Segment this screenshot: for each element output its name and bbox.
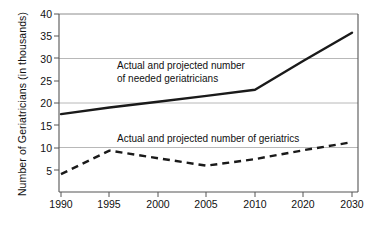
x-tick-label: 1990 — [38, 199, 84, 210]
annotation-needed-geriatricians: Actual and projected number of needed ge… — [117, 60, 245, 85]
line-chart-figure: Number of Geriatricians (in thousands) 4… — [0, 0, 376, 228]
annotation-needed-line2: of needed geriatricians — [117, 73, 245, 86]
x-tick-label: 2020 — [280, 199, 326, 210]
x-tick-label: 2010 — [232, 199, 278, 210]
x-tick-label: 2005 — [183, 199, 229, 210]
x-axis-tick-labels: 1990 1995 2000 2005 2010 2020 2030 — [0, 0, 376, 228]
annotation-needed-line1: Actual and projected number — [117, 60, 245, 73]
annotation-geriatrics-line1: Actual and projected number of geriatric… — [117, 133, 299, 146]
annotation-geriatrics: Actual and projected number of geriatric… — [117, 133, 299, 146]
x-tick-label: 1995 — [86, 199, 132, 210]
x-tick-label: 2000 — [135, 199, 181, 210]
x-tick-label: 2030 — [329, 199, 375, 210]
